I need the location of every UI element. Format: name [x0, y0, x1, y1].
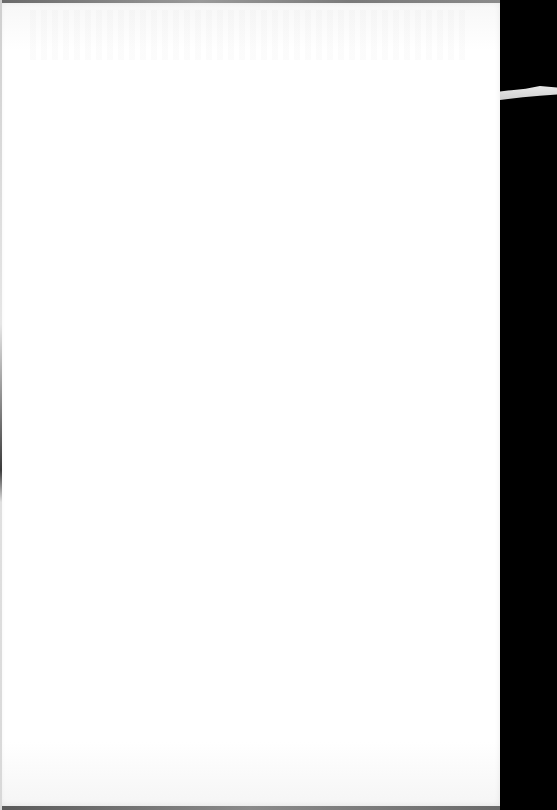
blank-page: [0, 2, 500, 806]
scanner-bed-margin: [500, 0, 557, 810]
page-top-edge-shadow: [0, 0, 500, 3]
page-bottom-edge-shadow: [0, 806, 500, 810]
page-left-edge: [0, 0, 2, 810]
scan-background: [0, 0, 557, 810]
faint-bleed-through-text: [30, 10, 470, 60]
